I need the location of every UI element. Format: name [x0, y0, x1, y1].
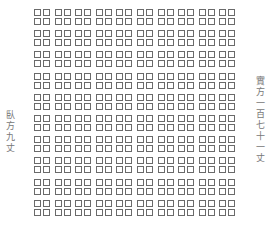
small-square-icon: [43, 136, 50, 143]
grid-cell: [55, 51, 71, 67]
small-square-icon: [146, 60, 153, 67]
small-square-icon: [75, 179, 82, 186]
small-square-icon: [43, 39, 50, 46]
small-square-icon: [34, 166, 41, 173]
small-square-icon: [125, 18, 132, 25]
small-square-icon: [199, 103, 206, 110]
small-square-icon: [84, 103, 91, 110]
small-square-icon: [84, 73, 91, 80]
grid-cell: [75, 94, 91, 110]
small-square-icon: [167, 73, 174, 80]
grid-cell: [199, 73, 215, 89]
grid-cell: [199, 200, 215, 216]
small-square-icon: [125, 30, 132, 37]
small-square-icon: [43, 60, 50, 67]
small-square-icon: [199, 51, 206, 58]
small-square-icon: [167, 145, 174, 152]
grid-cell: [75, 9, 91, 25]
small-square-icon: [158, 157, 165, 164]
small-square-icon: [208, 115, 215, 122]
grid-cell: [34, 51, 50, 67]
small-square-icon: [228, 179, 235, 186]
small-square-icon: [146, 145, 153, 152]
small-square-icon: [116, 18, 123, 25]
right-label: 實方一百七十一丈: [255, 76, 265, 164]
small-square-icon: [228, 115, 235, 122]
small-square-icon: [64, 200, 71, 207]
grid-cell: [178, 115, 194, 131]
grid-cell: [137, 200, 153, 216]
small-square-icon: [96, 145, 103, 152]
small-square-icon: [178, 60, 185, 67]
small-square-icon: [75, 124, 82, 131]
small-square-icon: [167, 9, 174, 16]
small-square-icon: [137, 124, 144, 131]
small-square-icon: [75, 188, 82, 195]
small-square-icon: [105, 51, 112, 58]
small-square-icon: [105, 115, 112, 122]
grid-cell: [178, 179, 194, 195]
small-square-icon: [43, 9, 50, 16]
small-square-icon: [208, 103, 215, 110]
small-square-icon: [146, 209, 153, 216]
small-square-icon: [208, 179, 215, 186]
small-square-icon: [219, 60, 226, 67]
small-square-icon: [146, 200, 153, 207]
small-square-icon: [178, 157, 185, 164]
small-square-icon: [64, 124, 71, 131]
small-square-icon: [64, 145, 71, 152]
small-square-icon: [167, 209, 174, 216]
small-square-icon: [208, 73, 215, 80]
grid-cell: [34, 179, 50, 195]
grid-cell: [75, 73, 91, 89]
small-square-icon: [34, 124, 41, 131]
small-square-icon: [146, 18, 153, 25]
small-square-icon: [199, 60, 206, 67]
small-square-icon: [167, 179, 174, 186]
grid-cell: [75, 157, 91, 173]
small-square-icon: [43, 82, 50, 89]
small-square-icon: [84, 157, 91, 164]
small-square-icon: [96, 209, 103, 216]
small-square-icon: [55, 188, 62, 195]
grid-cell: [34, 115, 50, 131]
small-square-icon: [167, 124, 174, 131]
grid-cell: [116, 136, 132, 152]
small-square-icon: [146, 73, 153, 80]
small-square-icon: [137, 94, 144, 101]
grid-cell: [34, 136, 50, 152]
grid-cell: [34, 73, 50, 89]
grid-cell: [34, 94, 50, 110]
small-square-icon: [55, 136, 62, 143]
small-square-icon: [75, 145, 82, 152]
small-square-icon: [208, 51, 215, 58]
grid-cell: [178, 73, 194, 89]
small-square-icon: [116, 200, 123, 207]
small-square-icon: [64, 209, 71, 216]
small-square-icon: [178, 179, 185, 186]
small-square-icon: [146, 136, 153, 143]
small-square-icon: [167, 94, 174, 101]
small-square-icon: [219, 18, 226, 25]
small-square-icon: [208, 39, 215, 46]
small-square-icon: [105, 60, 112, 67]
small-square-icon: [208, 124, 215, 131]
grid-cell: [116, 157, 132, 173]
grid-cell: [116, 200, 132, 216]
small-square-icon: [116, 166, 123, 173]
grid-cell: [219, 157, 235, 173]
grid-cell: [178, 9, 194, 25]
grid-cell: [116, 179, 132, 195]
small-square-icon: [125, 94, 132, 101]
small-square-icon: [208, 145, 215, 152]
grid-cell: [55, 136, 71, 152]
grid-cell: [55, 157, 71, 173]
small-square-icon: [84, 60, 91, 67]
small-square-icon: [96, 18, 103, 25]
grid-cell: [116, 9, 132, 25]
small-square-icon: [105, 9, 112, 16]
small-square-icon: [75, 157, 82, 164]
grid-cell: [178, 30, 194, 46]
small-square-icon: [75, 115, 82, 122]
square-grid-diagram: [34, 9, 235, 216]
